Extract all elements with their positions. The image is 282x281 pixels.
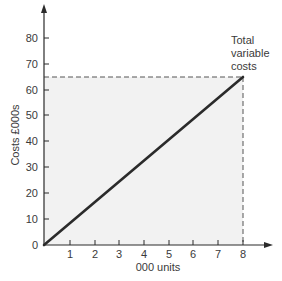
x-tick-label-5: 5 — [166, 248, 172, 260]
x-tick-label-2: 2 — [92, 248, 98, 260]
annotation-line-1: Total — [231, 34, 254, 46]
y-axis-arrow-icon — [41, 4, 47, 13]
y-tick-label-30: 30 — [26, 161, 38, 173]
x-axis-label: 000 units — [136, 261, 181, 273]
y-tick-label-20: 20 — [26, 187, 38, 199]
annotation-line-2: variable — [231, 47, 270, 59]
x-axis-arrow-icon — [264, 242, 273, 248]
x-tick-label-1: 1 — [67, 248, 73, 260]
y-tick-label-0: 0 — [32, 239, 38, 251]
x-tick-label-6: 6 — [190, 248, 196, 260]
x-tick-label-3: 3 — [116, 248, 122, 260]
y-tick-label-50: 50 — [26, 109, 38, 121]
y-tick-label-70: 70 — [26, 58, 38, 70]
chart: 0 10 20 30 40 50 60 70 80 1 2 3 4 5 6 7 … — [0, 0, 282, 281]
annotation-line-3: costs — [231, 60, 257, 72]
y-tick-label-40: 40 — [26, 135, 38, 147]
y-axis-label: Costs £000s — [9, 104, 21, 166]
y-tick-label-80: 80 — [26, 32, 38, 44]
x-tick-label-8: 8 — [240, 248, 246, 260]
x-tick-label-7: 7 — [215, 248, 221, 260]
x-tick-label-4: 4 — [141, 248, 147, 260]
y-tick-label-60: 60 — [26, 84, 38, 96]
y-tick-label-10: 10 — [26, 213, 38, 225]
